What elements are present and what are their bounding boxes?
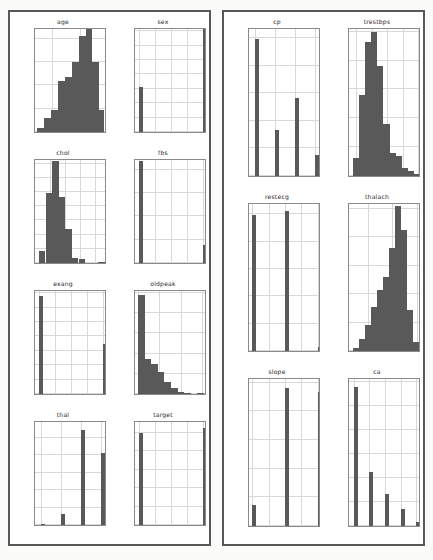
left-histogram-panel: age0501001502004060sex010020030040050060… [8, 10, 211, 546]
gridline-horizontal [135, 102, 205, 103]
histogram-grid-figure: age0501001502004060sex010020030040050060… [0, 0, 433, 560]
histogram-bar [275, 130, 279, 176]
histogram-cell-age: age0501001502004060 [14, 18, 112, 149]
x-tick-mark [201, 394, 202, 395]
gridline-horizontal [249, 268, 319, 269]
y-tick-mark [134, 353, 135, 354]
plot-axes: 02004006008000.000.250.500.751.00 [134, 159, 206, 264]
x-tick-mark [138, 525, 139, 526]
y-tick-mark [134, 432, 135, 433]
x-tick-mark [171, 263, 172, 264]
y-tick-mark [34, 455, 35, 456]
histogram-bar [65, 77, 72, 132]
gridline-horizontal [135, 332, 205, 333]
x-tick-mark [203, 263, 204, 264]
histogram-bar [255, 39, 259, 176]
histogram-bar [369, 472, 373, 526]
y-tick-mark [34, 220, 35, 221]
gridline-horizontal [249, 496, 319, 497]
plot-axes: 01002003004005000.00.51.01.52.0 [248, 203, 320, 352]
histogram-title: thal [14, 411, 112, 419]
y-tick-mark [34, 472, 35, 473]
x-tick-mark [138, 263, 139, 264]
y-tick-mark [34, 379, 35, 380]
gridline-vertical [356, 29, 357, 176]
y-tick-mark [34, 365, 35, 366]
gridline-horizontal [249, 65, 319, 66]
gridline-horizontal [249, 295, 319, 296]
gridline-vertical [55, 291, 56, 394]
gridline-horizontal [349, 88, 419, 89]
histogram-bar [65, 229, 72, 263]
y-tick-mark [248, 214, 249, 215]
gridline-vertical [403, 29, 404, 176]
gridline-horizontal [249, 120, 319, 121]
histogram-title: cp [228, 18, 326, 26]
gridline-horizontal [349, 381, 419, 382]
y-tick-mark [134, 394, 135, 395]
histogram-title: ca [328, 368, 426, 376]
gridline-vertical [269, 379, 270, 526]
gridline-vertical [155, 29, 156, 132]
x-tick-mark [187, 525, 188, 526]
histogram-bar [252, 215, 256, 351]
histogram-title: chol [14, 149, 112, 157]
histogram-bar [401, 509, 405, 526]
x-tick-mark [187, 132, 188, 133]
y-tick-mark [34, 248, 35, 249]
histogram-bar [252, 505, 256, 526]
y-tick-mark [348, 477, 349, 478]
y-tick-mark [248, 497, 249, 498]
x-tick-mark [252, 351, 253, 352]
gridline-horizontal [135, 192, 205, 193]
gridline-vertical [181, 291, 182, 394]
gridline-horizontal [249, 323, 319, 324]
x-tick-mark [285, 351, 286, 352]
y-tick-mark [248, 411, 249, 412]
x-tick-mark [353, 526, 354, 527]
y-tick-mark [348, 147, 349, 148]
gridline-horizontal [249, 175, 319, 176]
gridline-horizontal [35, 489, 105, 490]
gridline-horizontal [349, 31, 419, 32]
gridline-horizontal [349, 208, 419, 209]
plot-axes: 050100150200250300350200300400500 [34, 159, 106, 264]
histogram-title: target [114, 411, 212, 419]
y-tick-mark [134, 293, 135, 294]
x-tick-mark [50, 263, 51, 264]
histogram-cell-ca: ca010020030040050060001234 [328, 368, 426, 543]
plot-axes: 050100150200250100150200 [348, 203, 420, 352]
y-tick-mark [134, 488, 135, 489]
y-tick-mark [248, 65, 249, 66]
gridline-horizontal [35, 335, 105, 336]
gridline-horizontal [35, 507, 105, 508]
gridline-horizontal [349, 60, 419, 61]
gridline-vertical [301, 379, 302, 526]
x-tick-mark [356, 176, 357, 177]
y-tick-mark [348, 429, 349, 430]
x-tick-mark [203, 525, 204, 526]
y-tick-mark [348, 294, 349, 295]
gridline-horizontal [349, 477, 419, 478]
y-tick-mark [248, 268, 249, 269]
gridline-horizontal [35, 350, 105, 351]
histogram-bar [413, 342, 419, 351]
histogram-bar [203, 428, 206, 525]
gridline-horizontal [35, 364, 105, 365]
histogram-bar [59, 197, 66, 263]
y-tick-mark [134, 239, 135, 240]
y-tick-mark [348, 31, 349, 32]
plot-axes: 01002003004005006007000.000.250.500.751.… [34, 290, 106, 395]
x-tick-mark [171, 132, 172, 133]
y-tick-mark [34, 85, 35, 86]
histogram-bar [72, 258, 79, 263]
y-tick-mark [348, 453, 349, 454]
gridline-vertical [171, 160, 172, 263]
gridline-vertical [87, 291, 88, 394]
y-tick-mark [348, 60, 349, 61]
y-tick-mark [34, 177, 35, 178]
y-tick-mark [134, 506, 135, 507]
gridline-horizontal [35, 292, 105, 293]
y-tick-mark [134, 132, 135, 133]
x-tick-mark [81, 525, 82, 526]
